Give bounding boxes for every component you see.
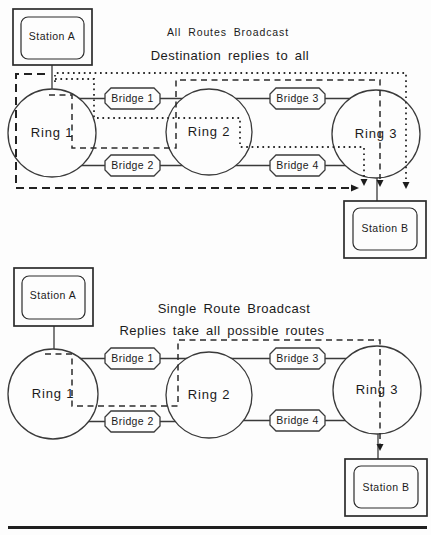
token-ring-broadcast-figure: All Routes Broadcast Destination replies… <box>0 0 431 535</box>
top-diagram-title: All Routes Broadcast <box>167 26 289 38</box>
station-a-label: Station A <box>30 289 77 301</box>
bridge-1-label: Bridge 1 <box>111 352 153 364</box>
ring-3-label: Ring 3 <box>355 126 397 141</box>
down-arrow-icon <box>361 179 368 186</box>
single-route-broadcast-diagram: Single Route Broadcast Replies take all … <box>8 268 427 516</box>
all-routes-broadcast-diagram: All Routes Broadcast Destination replies… <box>8 9 426 258</box>
ring-2-label: Ring 2 <box>188 124 230 139</box>
ring-1-label: Ring 1 <box>31 125 73 140</box>
ring-2-label: Ring 2 <box>188 387 230 402</box>
bridge-3-label: Bridge 3 <box>276 352 318 364</box>
bridge-4-label: Bridge 4 <box>276 159 318 171</box>
bridge-4-label: Bridge 4 <box>276 414 318 426</box>
bottom-diagram-title: Single Route Broadcast <box>158 301 311 316</box>
station-a-label: Station A <box>29 30 76 42</box>
station-b-label: Station B <box>361 222 408 234</box>
bridge-2-label: Bridge 2 <box>111 415 153 427</box>
bottom-diagram-subtitle: Replies take all possible routes <box>119 323 324 338</box>
station-b-label: Station B <box>362 481 409 493</box>
ring-1-label: Ring 1 <box>32 386 74 401</box>
ring-3-label: Ring 3 <box>356 382 398 397</box>
bridge-3-label: Bridge 3 <box>276 92 318 104</box>
down-arrow-icon <box>403 182 410 189</box>
bridge-2-label: Bridge 2 <box>111 159 153 171</box>
right-arrow-icon <box>351 185 359 192</box>
bridge-1-label: Bridge 1 <box>111 92 153 104</box>
top-diagram-subtitle: Destination replies to all <box>151 48 310 63</box>
bottom-rule <box>8 526 427 529</box>
figure-page: All Routes Broadcast Destination replies… <box>0 0 431 535</box>
